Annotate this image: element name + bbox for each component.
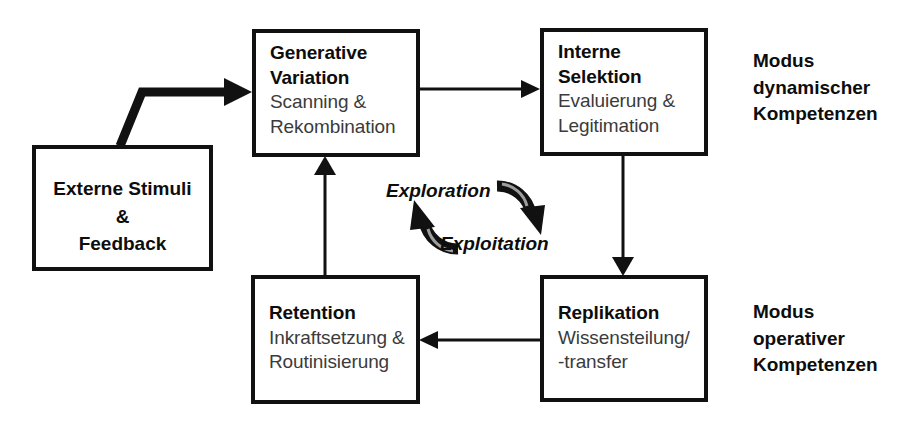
externe-stimuli-line1: Externe Stimuli <box>36 175 209 203</box>
label-modus-operativer-kompetenzen: Modus operativer Kompetenzen <box>753 299 878 379</box>
arrow-replikation-to-retention <box>419 331 540 349</box>
arrow-stimuli-to-generative-variation <box>120 78 252 146</box>
interne-selektion-sub-line1: Evaluierung & <box>558 89 698 114</box>
modus-dynamischer-line2: dynamischer <box>753 75 878 102</box>
replikation-title-line1: Replikation <box>558 301 698 326</box>
replikation-sub-line1: Wissensteilung/ <box>558 326 698 351</box>
modus-dynamischer-line3: Kompetenzen <box>753 101 878 128</box>
node-replikation[interactable]: Replikation Wissensteilung/ -transfer <box>540 275 708 402</box>
retention-sub-line2: Routinisierung <box>269 350 410 375</box>
generative-variation-sub-line1: Scanning & <box>270 90 410 115</box>
interne-selektion-sub-line2: Legitimation <box>558 114 698 139</box>
generative-variation-sub-line2: Rekombination <box>270 115 410 140</box>
diagram-canvas: Generative Variation Scanning & Rekombin… <box>0 0 910 427</box>
label-modus-dynamischer-kompetenzen: Modus dynamischer Kompetenzen <box>753 48 878 128</box>
externe-stimuli-line2: & <box>36 203 209 231</box>
arrow-interne-selektion-to-replikation <box>612 155 634 276</box>
retention-title-line1: Retention <box>269 301 410 326</box>
exploration-label: Exploration <box>386 180 491 202</box>
exploitation-label: Exploitation <box>440 233 549 255</box>
arrow-generative-variation-to-interne-selektion <box>419 80 540 98</box>
modus-operativer-line1: Modus <box>753 299 878 326</box>
generative-variation-title-line1: Generative <box>270 41 410 66</box>
replikation-sub-line2: -transfer <box>558 350 698 375</box>
generative-variation-title-line2: Variation <box>270 66 410 91</box>
node-externe-stimuli[interactable]: Externe Stimuli & Feedback <box>32 145 213 271</box>
node-generative-variation[interactable]: Generative Variation Scanning & Rekombin… <box>252 29 420 157</box>
arrow-retention-to-generative-variation <box>314 156 336 275</box>
modus-operativer-line3: Kompetenzen <box>753 352 878 379</box>
interne-selektion-title-line1: Interne <box>558 40 698 65</box>
modus-operativer-line2: operativer <box>753 326 878 353</box>
node-retention[interactable]: Retention Inkraftsetzung & Routinisierun… <box>251 275 420 404</box>
exploration-arc-icon <box>497 184 545 235</box>
node-interne-selektion[interactable]: Interne Selektion Evaluierung & Legitima… <box>540 28 708 156</box>
retention-sub-line1: Inkraftsetzung & <box>269 326 410 351</box>
modus-dynamischer-line1: Modus <box>753 48 878 75</box>
interne-selektion-title-line2: Selektion <box>558 65 698 90</box>
externe-stimuli-line3: Feedback <box>36 230 209 258</box>
